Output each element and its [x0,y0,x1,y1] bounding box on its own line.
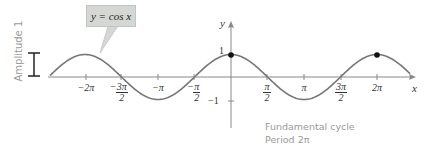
amplitude-bracket-icon [28,53,40,76]
cycle-note-line2: Period 2π [265,133,355,146]
cosine-graph [0,0,430,152]
point-max-at-2pi [374,52,380,58]
x-tick-pi: π [296,83,312,93]
amplitude-label: Amplitude 1 [13,22,24,82]
x-tick-2pi: 2π [365,83,389,93]
x-tick-negpi: −π [148,83,168,93]
cycle-note-line1: Fundamental cycle [265,120,355,133]
y-axis-label: y [220,18,225,28]
x-tick-neg3pi2: −3π2 [104,82,134,103]
x-axis-arrow-icon [409,74,416,80]
y-tick-neg1: −1 [208,96,219,106]
function-callout: y = cos x [86,5,136,27]
y-tick-1: 1 [219,46,224,56]
callout-pointer [100,26,118,53]
callout-text: y = cos x [91,10,131,22]
x-tick-negpi2: −π2 [180,82,208,103]
x-tick-pi2: π2 [259,82,275,103]
x-tick-neg2pi: −2π [74,83,98,93]
fundamental-cycle-note: Fundamental cycle Period 2π [265,120,355,146]
x-tick-3pi2: 3π2 [331,82,351,103]
y-axis-arrow-icon [228,21,234,28]
x-axis-label: x [412,83,417,93]
point-max-at-zero [228,52,234,58]
